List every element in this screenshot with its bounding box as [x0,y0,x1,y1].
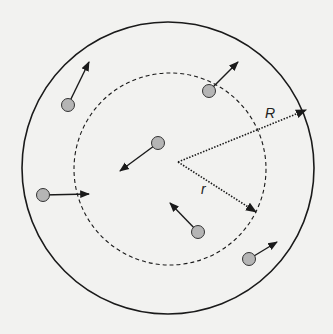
particle-dot [37,189,50,202]
particle-dot [152,137,165,150]
particle-dot [192,226,205,239]
particle-sphere-diagram: R r [0,0,333,334]
particle-dot [243,253,256,266]
particle-5 [170,203,205,239]
particle-4 [37,189,90,202]
outer-sphere-boundary [22,22,314,314]
particle-1 [62,62,90,112]
velocity-arrow [120,143,158,171]
inner-radius-label: r [201,181,207,197]
particle-3 [120,137,165,172]
particle-2 [203,62,239,98]
particle-dot [203,85,216,98]
inner-dashed-sphere [74,73,266,265]
particle-dot [62,99,75,112]
outer-radius-line [178,110,306,162]
inner-radius-line [178,162,256,212]
velocity-arrow [68,62,89,105]
outer-radius-label: R [265,105,275,121]
particle-6 [243,242,278,266]
